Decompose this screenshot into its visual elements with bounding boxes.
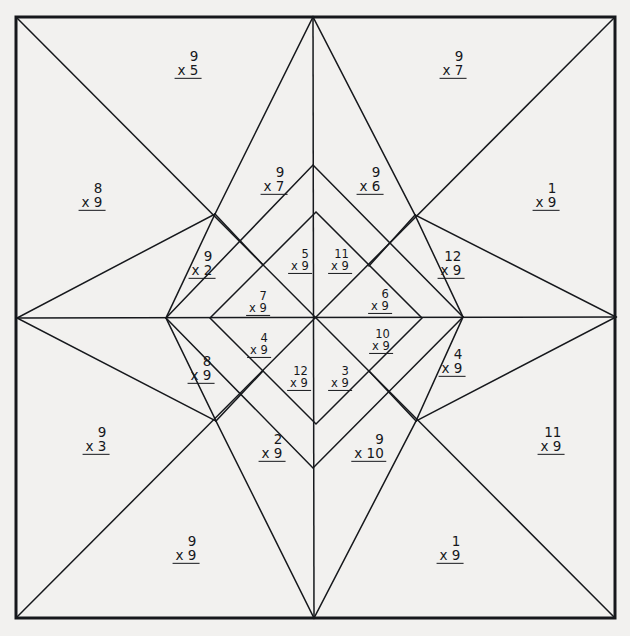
axis-horizontal <box>17 317 616 318</box>
problem-p-core-upper-right: 11x 9 <box>328 248 352 274</box>
problem-multiplier: x 9 <box>287 377 311 391</box>
problem-multiplicand: 12 <box>444 249 464 263</box>
problem-multiplier: x 10 <box>351 446 386 462</box>
problem-p-top-right-outer: 9x 7 <box>440 49 467 79</box>
problem-multiplicand: 9 <box>455 49 467 63</box>
ray-core-sw <box>216 371 263 421</box>
problem-p-bottom-left-outer: 9x 9 <box>173 534 200 564</box>
problem-multiplier: x 9 <box>437 548 464 564</box>
problem-multiplier: x 9 <box>439 361 466 377</box>
problem-multiplicand: 1 <box>548 181 560 195</box>
problem-p-inner-top-right: 9x 6 <box>357 165 384 195</box>
problem-p-inner-bot-left: 2x 9 <box>259 432 286 462</box>
problem-multiplicand: 9 <box>375 432 387 446</box>
problem-p-core-left-upper: 7x 9 <box>246 290 270 316</box>
problem-p-se-wedge: 4x 9 <box>439 347 466 377</box>
problem-multiplier: x 9 <box>538 439 565 455</box>
problem-p-right-upper: 1x 9 <box>533 181 560 211</box>
problem-multiplier: x 9 <box>438 263 465 279</box>
ray-core-se <box>369 371 416 421</box>
problem-p-nw-wedge: 9x 2 <box>189 249 216 279</box>
problem-p-left-lower: 9x 3 <box>83 425 110 455</box>
problem-p-ne-wedge: 12x 9 <box>438 249 465 279</box>
problem-multiplier: x 2 <box>189 263 216 279</box>
problem-p-sw-wedge: 8x 9 <box>188 354 215 384</box>
problem-p-core-left-lower: 4x 9 <box>247 332 271 358</box>
problem-multiplicand: 9 <box>188 534 200 548</box>
problem-multiplicand: 8 <box>203 354 215 368</box>
problem-multiplier: x 9 <box>188 368 215 384</box>
problem-multiplier: x 9 <box>79 195 106 211</box>
problem-multiplier: x 9 <box>368 300 392 314</box>
problem-multiplier: x 9 <box>328 260 352 274</box>
problem-multiplicand: 9 <box>98 425 110 439</box>
worksheet-canvas: 9x 59x 78x 91x 99x 79x 69x 212x 95x 911x… <box>0 0 630 636</box>
problem-multiplier: x 9 <box>533 195 560 211</box>
problem-p-core-upper-left: 5x 9 <box>288 248 312 274</box>
problem-p-top-left-outer: 9x 5 <box>175 49 202 79</box>
problem-p-left-upper: 8x 9 <box>79 181 106 211</box>
problem-multiplicand: 2 <box>274 432 286 446</box>
problem-p-bottom-right-outer: 1x 9 <box>437 534 464 564</box>
problem-multiplier: x 9 <box>369 340 393 354</box>
problem-multiplier: x 9 <box>259 446 286 462</box>
problem-multiplier: x 3 <box>83 439 110 455</box>
problem-multiplier: x 7 <box>440 63 467 79</box>
problem-multiplier: x 9 <box>247 344 271 358</box>
problem-p-right-lower: 11x 9 <box>538 425 565 455</box>
problem-p-core-right-upper: 6x 9 <box>368 288 392 314</box>
problem-multiplier: x 9 <box>288 260 312 274</box>
problem-p-inner-top-left: 9x 7 <box>261 165 288 195</box>
ray-core-nw <box>215 214 263 265</box>
ray-core-ne <box>369 215 415 266</box>
problem-multiplicand: 4 <box>454 347 466 361</box>
problem-multiplier: x 9 <box>246 302 270 316</box>
problem-multiplicand: 9 <box>190 49 202 63</box>
problem-p-core-lower-left: 12x 9 <box>287 365 311 391</box>
problem-multiplicand: 9 <box>276 165 288 179</box>
problem-multiplier: x 6 <box>357 179 384 195</box>
problem-multiplicand: 1 <box>452 534 464 548</box>
problem-multiplicand: 11 <box>544 425 564 439</box>
problem-multiplicand: 8 <box>94 181 106 195</box>
problem-p-core-right-lower: 10x 9 <box>369 328 393 354</box>
problem-p-inner-bot-right: 9x 10 <box>351 432 386 462</box>
problem-multiplier: x 9 <box>328 377 352 391</box>
problem-p-core-lower-right: 3x 9 <box>328 365 352 391</box>
problem-multiplicand: 9 <box>204 249 216 263</box>
problem-multiplicand: 9 <box>372 165 384 179</box>
problem-multiplier: x 9 <box>173 548 200 564</box>
star-spike-top <box>215 17 415 215</box>
star-pattern-artwork <box>0 0 630 636</box>
problem-multiplier: x 5 <box>175 63 202 79</box>
problem-multiplier: x 7 <box>261 179 288 195</box>
